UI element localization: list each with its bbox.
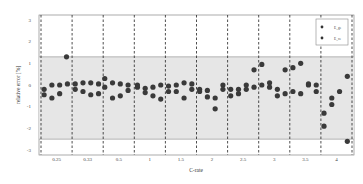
legend-box bbox=[316, 19, 348, 45]
x-tick-label: 3 bbox=[273, 157, 276, 162]
x-tick-label: 0.33 bbox=[83, 157, 92, 162]
x-tick-label: 3.5 bbox=[302, 157, 309, 162]
data-point bbox=[345, 74, 350, 79]
data-point bbox=[110, 95, 115, 100]
legend-label-2: E_ce bbox=[334, 37, 341, 41]
data-point bbox=[118, 81, 123, 86]
y-axis-label: relative error [%] bbox=[15, 66, 21, 104]
data-point bbox=[267, 85, 272, 90]
data-point bbox=[189, 81, 194, 86]
data-point bbox=[290, 65, 295, 70]
data-point bbox=[213, 106, 218, 111]
data-point bbox=[80, 80, 85, 85]
data-point bbox=[135, 85, 140, 90]
data-point bbox=[49, 82, 54, 87]
data-point bbox=[150, 93, 155, 98]
x-axis-label: C-rate bbox=[189, 167, 203, 173]
data-point bbox=[259, 62, 264, 67]
data-point bbox=[306, 81, 311, 86]
data-point bbox=[64, 54, 69, 59]
data-point bbox=[228, 93, 233, 98]
data-point bbox=[42, 92, 47, 97]
y-axis-ticks: 3210-1-2-3 bbox=[27, 18, 32, 153]
data-point bbox=[298, 91, 303, 96]
data-point bbox=[125, 82, 130, 87]
data-point bbox=[143, 90, 148, 95]
data-point bbox=[158, 96, 163, 101]
x-tick-label: 2.5 bbox=[240, 157, 247, 162]
data-point bbox=[174, 82, 179, 87]
data-point bbox=[174, 89, 179, 94]
data-point bbox=[314, 82, 319, 87]
y-tick-label: -1 bbox=[27, 104, 32, 109]
data-point bbox=[96, 91, 101, 96]
data-point bbox=[205, 94, 210, 99]
data-point bbox=[49, 95, 54, 100]
x-tick-label: 0.25 bbox=[52, 157, 61, 162]
legend-label-1: E_ge bbox=[334, 26, 342, 30]
data-point bbox=[88, 92, 93, 97]
data-point bbox=[110, 80, 115, 85]
data-point bbox=[42, 87, 47, 92]
data-point bbox=[290, 89, 295, 94]
legend-marker-2 bbox=[321, 37, 324, 40]
data-point bbox=[102, 76, 107, 81]
y-tick-label: -2 bbox=[27, 126, 32, 131]
y-tick-label: 1 bbox=[29, 61, 32, 66]
data-point bbox=[251, 85, 256, 90]
data-point bbox=[158, 82, 163, 87]
data-point bbox=[329, 102, 334, 107]
data-point bbox=[102, 85, 107, 90]
data-point bbox=[283, 91, 288, 96]
data-point bbox=[220, 87, 225, 92]
data-point bbox=[275, 87, 280, 92]
data-point bbox=[189, 87, 194, 92]
data-point bbox=[181, 80, 186, 85]
data-point bbox=[275, 93, 280, 98]
x-tick-label: 4 bbox=[335, 157, 338, 162]
data-point bbox=[205, 88, 210, 93]
x-tick-label: 1 bbox=[149, 157, 152, 162]
data-point bbox=[118, 93, 123, 98]
x-tick-label: 1.5 bbox=[178, 157, 185, 162]
data-point bbox=[88, 80, 93, 85]
data-point bbox=[150, 85, 155, 90]
data-point bbox=[259, 82, 264, 87]
data-point bbox=[96, 81, 101, 86]
data-point bbox=[298, 61, 303, 66]
legend: E_ge E_ce bbox=[316, 19, 348, 45]
y-tick-label: 3 bbox=[29, 18, 32, 23]
data-point bbox=[329, 95, 334, 100]
data-point bbox=[166, 83, 171, 88]
data-point bbox=[321, 124, 326, 129]
data-point bbox=[73, 87, 78, 92]
data-point bbox=[213, 95, 218, 100]
data-point bbox=[236, 87, 241, 92]
data-point bbox=[283, 67, 288, 72]
y-tick-label: -3 bbox=[27, 148, 32, 153]
y-tick-label: 0 bbox=[29, 83, 32, 88]
legend-marker-1 bbox=[321, 26, 324, 29]
data-point bbox=[321, 111, 326, 116]
data-point bbox=[251, 67, 256, 72]
data-point bbox=[197, 89, 202, 94]
x-tick-label: 2 bbox=[211, 157, 214, 162]
data-point bbox=[73, 81, 78, 86]
data-point bbox=[181, 95, 186, 100]
data-point bbox=[57, 91, 62, 96]
data-point bbox=[65, 81, 70, 86]
data-point bbox=[345, 139, 350, 144]
x-axis-ticks: 0.250.330.511.522.533.54 bbox=[52, 157, 338, 162]
data-point bbox=[166, 89, 171, 94]
data-point bbox=[314, 89, 319, 94]
data-point bbox=[244, 82, 249, 87]
data-point bbox=[337, 89, 342, 94]
data-point bbox=[80, 89, 85, 94]
y-tick-label: 2 bbox=[29, 39, 32, 44]
data-point bbox=[57, 82, 62, 87]
data-point bbox=[228, 87, 233, 92]
scatter-chart: 3210-1-2-3 0.250.330.511.522.533.54 C-ra… bbox=[0, 0, 363, 184]
x-tick-label: 0.5 bbox=[116, 157, 123, 162]
data-point bbox=[125, 88, 130, 93]
